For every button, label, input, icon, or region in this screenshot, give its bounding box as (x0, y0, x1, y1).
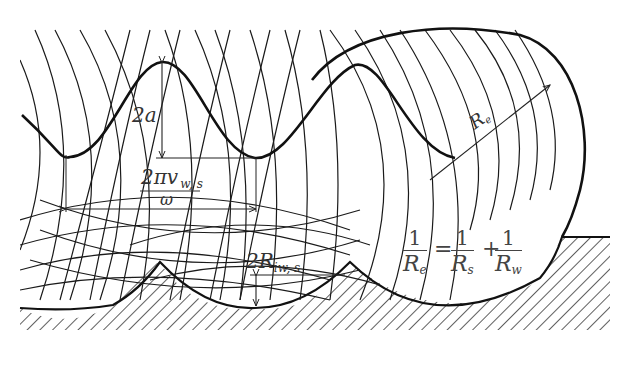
rolling-contact-diagram (0, 0, 626, 372)
label-amplitude: 2a (132, 105, 157, 125)
label-groove-depth: 2Riw, s (246, 251, 300, 274)
formula-t1-num: 1 (454, 228, 471, 248)
lhs-den-r: R (403, 251, 420, 276)
wave-profile (22, 62, 455, 158)
formula-equals: = (434, 238, 452, 260)
formula-lhs-num: 1 (406, 228, 423, 248)
formula-lhs: 1 Re (403, 228, 427, 276)
t1-den-sub: s (468, 263, 474, 277)
equivalent-circle (312, 29, 585, 237)
t2-den-sub: w (512, 263, 522, 277)
formula-t1-den: Rs (451, 253, 474, 276)
groove-sub: iw, s (274, 261, 300, 275)
wavelength-num-text: 2πv (141, 165, 178, 189)
formula-t2-num: 1 (500, 228, 517, 248)
t1-den-r: R (451, 251, 468, 276)
groove-text: 2R (246, 249, 274, 273)
label-wavelength-numerator: 2πvw, s (141, 167, 203, 190)
label-wavelength-denominator: ω (160, 192, 173, 208)
formula-t2-den: Rw (495, 253, 522, 276)
formula-term-w: 1 Rw (495, 228, 522, 276)
lhs-den-sub: e (420, 263, 427, 277)
t2-den-r: R (495, 251, 512, 276)
formula-lhs-den: Re (403, 253, 427, 276)
wavelength-num-sub: w, s (180, 177, 203, 191)
formula-term-s: 1 Rs (451, 228, 474, 276)
radius-arrow (430, 85, 550, 180)
